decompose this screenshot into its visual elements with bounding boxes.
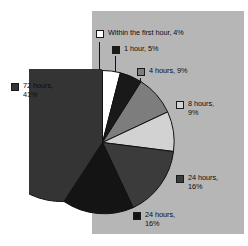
label-one-hour: 1 hour, 5% [112,45,158,54]
label-four-hours: 4 hours, 9% [137,67,187,76]
label-seventytwo-hours-text: 72 hours, 41% [23,82,53,99]
label-seventytwo-hours: 72 hours, 41% [11,82,53,99]
label-twentyfour-hours-a: 24 hours, 16% [176,174,218,191]
label-within-first-hour-text: Within the first hour, 4% [108,29,184,38]
label-eight-hours: 8 hours, 9% [176,100,214,117]
chart-canvas: Within the first hour, 4% 1 hour, 5% 4 h… [0,0,248,246]
swatch-seventytwo-hours-icon [11,83,19,91]
label-one-hour-text: 1 hour, 5% [124,45,158,54]
label-twentyfour-hours-b-text: 24 hours, 16% [145,211,175,228]
swatch-four-hours-icon [137,68,145,76]
label-eight-hours-text: 8 hours, 9% [188,100,214,117]
label-four-hours-text: 4 hours, 9% [149,67,187,76]
label-within-first-hour: Within the first hour, 4% [96,29,184,38]
swatch-eight-hours-icon [176,101,184,109]
swatch-twentyfour-hours-a-icon [176,175,184,183]
swatch-twentyfour-hours-b-icon [133,212,141,220]
swatch-one-hour-icon [112,46,120,54]
label-twentyfour-hours-b: 24 hours, 16% [133,211,175,228]
swatch-within-first-hour-icon [96,30,104,38]
label-twentyfour-hours-a-text: 24 hours, 16% [188,174,218,191]
